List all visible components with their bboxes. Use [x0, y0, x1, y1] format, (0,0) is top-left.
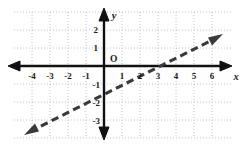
x-tick-label-4: 4 — [174, 71, 179, 81]
origin-label: O — [110, 54, 117, 64]
function-arrow-lower-left — [24, 124, 39, 136]
x-tick-label-neg4: -4 — [28, 71, 36, 81]
x-tick-label-6: 6 — [210, 71, 215, 81]
x-tick-label-2: 2 — [138, 71, 143, 81]
dashed-function-line — [30, 37, 217, 131]
y-axis-arrow-up — [99, 8, 109, 21]
x-axis-label: x — [232, 71, 238, 82]
coordinate-plane: -4 -3 -2 -1 1 2 3 4 5 6 2 1 -1 -2 -3 O x… — [0, 0, 246, 149]
y-axis-label: y — [110, 10, 117, 21]
y-axis-tick-labels: 2 1 -1 -2 -3 — [93, 25, 101, 126]
graph-screenshot: -4 -3 -2 -1 1 2 3 4 5 6 2 1 -1 -2 -3 O x… — [0, 0, 246, 149]
x-tick-label-neg1: -1 — [82, 71, 90, 81]
function-arrow-upper-right — [208, 34, 223, 46]
x-axis-arrow-right — [220, 61, 232, 71]
x-tick-label-3: 3 — [156, 71, 161, 81]
x-tick-label-neg3: -3 — [46, 71, 54, 81]
x-tick-label-5: 5 — [192, 71, 197, 81]
x-axis-tick-labels: -4 -3 -2 -1 1 2 3 4 5 6 — [28, 71, 215, 81]
y-tick-label-neg3: -3 — [93, 116, 101, 126]
x-tick-label-1: 1 — [120, 71, 125, 81]
y-tick-label-1: 1 — [94, 43, 99, 53]
y-tick-label-neg1: -1 — [93, 80, 101, 90]
x-tick-label-neg2: -2 — [64, 71, 72, 81]
function-line-group — [24, 34, 223, 135]
y-tick-label-2: 2 — [94, 25, 99, 35]
x-axis-arrow-left — [8, 61, 20, 71]
y-tick-label-neg2: -2 — [93, 98, 101, 108]
